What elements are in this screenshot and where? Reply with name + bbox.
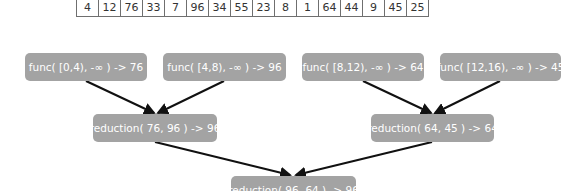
func-node-4-8: func( [4,8), -∞ ) -> 96 (163, 53, 286, 81)
array-cell: 34 (209, 0, 231, 17)
edge-func4-reduction2 (435, 81, 500, 113)
edges (0, 0, 586, 191)
reduction-node-final: reduction( 96, 64 ) -> 96 (231, 176, 356, 191)
array-cell: 64 (319, 0, 341, 17)
func-node-0-4: func( [0,4), -∞ ) -> 76 (25, 53, 147, 81)
func-node-label: func( [4,8), -∞ ) -> 96 (167, 61, 281, 73)
array-cell: 25 (407, 0, 429, 17)
reduction-node-label: reduction( 64, 45 ) -> 64 (367, 122, 498, 134)
final-node-label: reduction( 96, 64 ) -> 96 (228, 184, 359, 191)
reduction-node-label: reduction( 76, 96 ) -> 96 (90, 122, 221, 134)
edge-func2-reduction1 (158, 81, 224, 113)
array-cell: 45 (385, 0, 407, 17)
input-array: 4 12 76 33 7 96 34 55 23 8 1 64 44 9 45 … (76, 0, 429, 17)
array-cell: 76 (121, 0, 143, 17)
array-cell: 55 (231, 0, 253, 17)
func-node-12-16: func( [12,16), -∞ ) -> 45 (440, 53, 561, 81)
array-row: 4 12 76 33 7 96 34 55 23 8 1 64 44 9 45 … (77, 0, 429, 17)
array-cell: 33 (143, 0, 165, 17)
edge-func3-reduction2 (363, 81, 431, 113)
func-node-label: func( [0,4), -∞ ) -> 76 (29, 61, 143, 73)
edge-func1-reduction1 (86, 81, 154, 113)
reduction-node-left: reduction( 76, 96 ) -> 96 (93, 114, 217, 142)
array-cell: 23 (253, 0, 275, 17)
array-cell: 9 (363, 0, 385, 17)
array-cell: 7 (165, 0, 187, 17)
edge-reduction1-final (155, 142, 290, 175)
func-node-label: func( [12,16), -∞ ) -> 45 (437, 61, 565, 73)
edge-reduction2-final (296, 142, 432, 175)
array-cell: 44 (341, 0, 363, 17)
array-cell: 8 (275, 0, 297, 17)
func-node-8-12: func( [8,12), -∞ ) -> 64 (302, 53, 424, 81)
array-cell: 12 (99, 0, 121, 17)
func-node-label: func( [8,12), -∞ ) -> 64 (302, 61, 423, 73)
reduction-node-right: reduction( 64, 45 ) -> 64 (371, 114, 494, 142)
array-cell: 1 (297, 0, 319, 17)
array-cell: 96 (187, 0, 209, 17)
array-cell: 4 (77, 0, 99, 17)
